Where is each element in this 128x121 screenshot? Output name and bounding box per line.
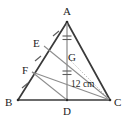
- vertex-dot-A: [66, 21, 69, 24]
- label-point-G: G: [68, 52, 76, 63]
- segment-EC: [44, 46, 110, 100]
- label-vertex-B: B: [5, 97, 12, 108]
- segment-AB: [18, 22, 67, 100]
- geometry-figure: A B C D E F G 12 cm: [0, 0, 128, 121]
- segment-FD: [32, 72, 67, 100]
- label-vertex-C: C: [114, 97, 121, 108]
- label-point-F: F: [22, 65, 28, 76]
- vertex-dot-B: [17, 99, 20, 102]
- vertex-dot-D: [66, 99, 68, 101]
- label-vertex-A: A: [63, 6, 71, 17]
- tick-EF: [35, 56, 41, 61]
- geometry-canvas: [0, 0, 128, 121]
- measurement-label-12cm: 12 cm: [71, 79, 94, 89]
- label-point-E: E: [33, 38, 40, 49]
- label-vertex-D: D: [63, 106, 71, 117]
- vertex-dot-C: [109, 99, 112, 102]
